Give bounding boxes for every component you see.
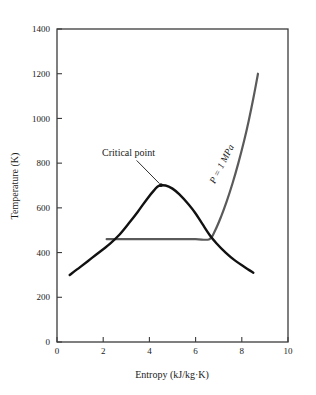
x-tick-label: 2 [101, 346, 106, 356]
x-tick-label: 0 [55, 346, 60, 356]
y-tick-label: 1000 [32, 114, 51, 124]
chart-figure: 0246810 0200400600800100012001400 Critic… [0, 0, 316, 395]
temperature-entropy-diagram: 0246810 0200400600800100012001400 Critic… [0, 0, 316, 395]
x-tick-label: 10 [284, 346, 294, 356]
y-tick-label: 0 [46, 337, 51, 347]
y-tick-label: 200 [37, 292, 51, 302]
plot-frame [57, 29, 288, 342]
y-tick-label: 1200 [32, 69, 51, 79]
y-tick-label: 1400 [32, 24, 51, 34]
y-tick-label: 600 [37, 203, 51, 213]
x-tick-label: 6 [193, 346, 198, 356]
y-axis-title: Temperature (K) [9, 153, 21, 220]
x-tick-label: 8 [240, 346, 245, 356]
y-axis-tick-labels: 0200400600800100012001400 [32, 24, 51, 347]
x-tick-label: 4 [147, 346, 152, 356]
x-axis-tick-labels: 0246810 [55, 346, 293, 356]
x-axis-title: Entropy (kJ/kg·K) [135, 369, 209, 381]
critical-point-marker [159, 183, 163, 187]
y-tick-label: 400 [37, 248, 51, 258]
y-tick-label: 800 [37, 158, 51, 168]
critical-point-label: Critical point [102, 147, 155, 158]
